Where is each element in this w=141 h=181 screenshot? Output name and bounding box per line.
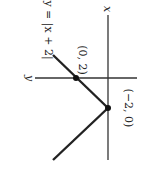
point-label-neg2-0: (−2, 0): [122, 89, 135, 128]
point-0-2: [73, 75, 79, 81]
graph-lower-branch: [53, 108, 108, 160]
point-neg2-0: [105, 105, 111, 111]
y-axis-label: y: [23, 74, 36, 82]
x-axis-label: x: [101, 6, 114, 13]
function-label: y = |x + 2|: [41, 0, 55, 60]
point-label-0-2: (0, 2): [76, 45, 89, 75]
graph-diagram: x y y = |x + 2| (0, 2) (−2, 0): [0, 0, 141, 181]
